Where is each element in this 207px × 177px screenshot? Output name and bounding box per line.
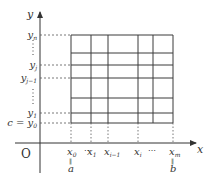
- x-ellipsis: ⋯: [148, 146, 156, 155]
- y-tick-label: c = y0: [7, 117, 37, 129]
- x-bound-label: b: [170, 163, 176, 174]
- y-axis-label: y: [26, 8, 34, 21]
- y-tick-label: yj: [28, 59, 37, 72]
- x-ellipsis: ⋯: [84, 146, 92, 155]
- x-tick-label: xi−1: [104, 146, 120, 158]
- tick-labels: x0‖ax1xi−1xixm‖b⋯⋯ynyjyj−1y1c = y0: [7, 29, 180, 174]
- y-tick-label: yn: [26, 29, 37, 41]
- riemann-grid-diagram: x0‖ax1xi−1xixm‖b⋯⋯ynyjyj−1y1c = y0 y x O: [0, 0, 207, 177]
- x-tick-label: xi: [134, 146, 142, 158]
- x-axis-label: x: [197, 143, 204, 156]
- y-tick-label: yj−1: [20, 72, 37, 85]
- x-bound-label: a: [68, 163, 74, 174]
- partition-grid: [71, 35, 173, 123]
- origin-label: O: [21, 147, 31, 161]
